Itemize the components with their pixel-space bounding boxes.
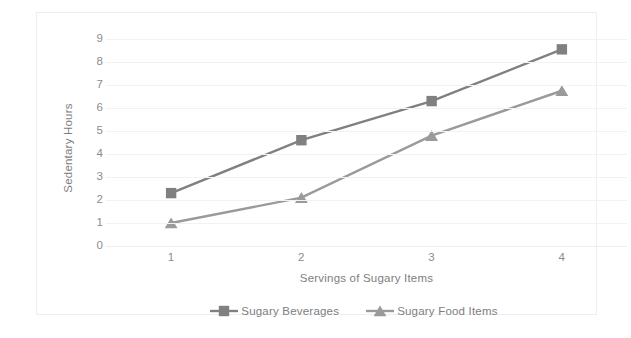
y-axis-tick-label: 3	[77, 171, 103, 183]
legend-entry[interactable]: Sugary Food Items	[365, 305, 498, 317]
y-axis-tick-label: 0	[77, 240, 103, 252]
gridline	[106, 131, 627, 132]
gridline	[106, 62, 627, 63]
y-axis-title: Sedentary Hours	[59, 73, 77, 223]
x-axis-tick-labels: 1234	[106, 252, 627, 268]
y-axis-tick-label: 9	[77, 33, 103, 45]
y-axis-tick-label: 2	[77, 194, 103, 206]
x-axis-tick-label: 3	[412, 252, 452, 264]
x-axis-tick-label: 2	[281, 252, 321, 264]
legend-triangle-icon	[365, 305, 395, 317]
gridline	[106, 177, 627, 178]
gridline	[106, 108, 627, 109]
gridline	[106, 154, 627, 155]
gridline	[106, 223, 627, 224]
legend-label: Sugary Beverages	[241, 305, 339, 317]
gridline	[106, 39, 627, 40]
series-marker	[296, 135, 306, 145]
chart-frame: Sedentary Hours 0123456789 1234 Servings…	[36, 12, 597, 315]
y-axis-tick-label: 8	[77, 56, 103, 68]
series-layer	[106, 39, 627, 246]
x-axis-title: Servings of Sugary Items	[106, 272, 627, 284]
series-line	[171, 49, 562, 193]
x-axis-tick-label: 1	[151, 252, 191, 264]
series-marker	[555, 85, 568, 96]
y-axis-tick-label: 6	[77, 102, 103, 114]
legend-label: Sugary Food Items	[397, 305, 498, 317]
y-axis-tick-label: 5	[77, 125, 103, 137]
series-line	[171, 91, 562, 223]
legend-square-icon	[209, 305, 239, 317]
legend-marker-square	[219, 306, 229, 316]
series-marker	[426, 96, 436, 106]
y-axis-tick-label: 7	[77, 79, 103, 91]
y-axis-title-label: Sedentary Hours	[62, 103, 74, 192]
x-axis-tick-label: 4	[542, 252, 582, 264]
plot-area	[106, 39, 627, 246]
gridline	[106, 85, 627, 86]
y-axis-tick-label: 1	[77, 217, 103, 229]
gridline	[106, 200, 627, 201]
series-marker	[557, 44, 567, 54]
legend-entry[interactable]: Sugary Beverages	[209, 305, 339, 317]
gridline	[106, 246, 627, 247]
series-marker	[166, 188, 176, 198]
y-axis-tick-labels: 0123456789	[77, 39, 103, 246]
y-axis-tick-label: 4	[77, 148, 103, 160]
chart-legend: Sugary BeveragesSugary Food Items	[73, 305, 631, 317]
